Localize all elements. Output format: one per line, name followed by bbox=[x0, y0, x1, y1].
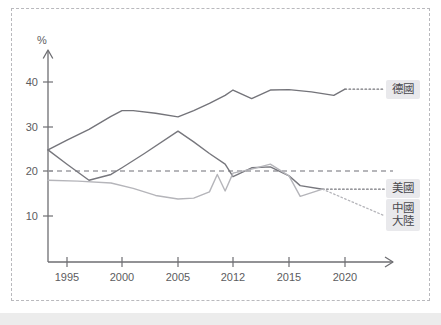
x-tick-label-2015: 2015 bbox=[277, 271, 301, 283]
series-line-1 bbox=[48, 131, 323, 189]
x-tick-label-2020: 2020 bbox=[333, 271, 357, 283]
y-tick-label-30: 30 bbox=[26, 121, 38, 133]
legend-text-germany: 德國 bbox=[392, 83, 414, 95]
series-line-2 bbox=[48, 164, 323, 199]
x-tick-label-2000: 2000 bbox=[110, 271, 134, 283]
legend-label-usa[interactable]: 美國 bbox=[386, 179, 420, 198]
legend-text-china-line1: 中國 bbox=[392, 202, 414, 215]
bottom-band bbox=[0, 313, 441, 325]
x-tick-label-1995: 1995 bbox=[55, 271, 79, 283]
x-tick-label-2012: 2012 bbox=[221, 271, 245, 283]
legend-text-usa: 美國 bbox=[392, 182, 414, 194]
series-layer bbox=[48, 89, 385, 216]
series-line-0 bbox=[48, 89, 345, 150]
y-tick-label-20: 20 bbox=[26, 165, 38, 177]
chart-figure: 40 30 20 10 % 1995 2000 2005 2012 2015 2… bbox=[0, 0, 441, 325]
y-axis-unit-label: % bbox=[37, 34, 47, 46]
y-tick-label-40: 40 bbox=[26, 76, 38, 88]
series-projection-2 bbox=[323, 189, 385, 216]
x-tick-label-2005: 2005 bbox=[166, 271, 190, 283]
line-chart-canvas: 40 30 20 10 % 1995 2000 2005 2012 2015 2… bbox=[0, 0, 441, 325]
legend-text-china-line2: 大陸 bbox=[392, 215, 414, 228]
legend-label-china[interactable]: 中國 大陸 bbox=[386, 199, 420, 231]
y-tick-label-10: 10 bbox=[26, 210, 38, 222]
x-axis bbox=[48, 257, 393, 267]
legend-label-germany[interactable]: 德國 bbox=[386, 80, 420, 99]
